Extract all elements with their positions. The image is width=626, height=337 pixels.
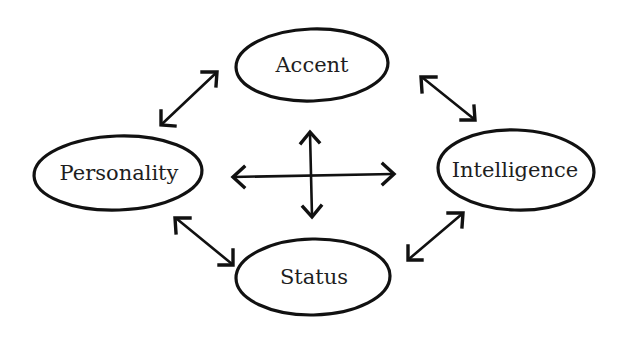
arrow-personality-status-icon bbox=[175, 218, 233, 265]
node-personality: Personality bbox=[33, 133, 203, 213]
node-status: Status bbox=[235, 238, 390, 317]
node-accent: Accent bbox=[235, 26, 389, 103]
four-way-cross-arrow-icon bbox=[233, 132, 394, 217]
node-intelligence: Intelligence bbox=[437, 127, 596, 212]
status-label: Status bbox=[280, 265, 348, 289]
personality-label: Personality bbox=[60, 161, 179, 185]
accent-label: Accent bbox=[274, 53, 349, 77]
arrow-accent-intelligence-icon bbox=[421, 77, 475, 120]
arrow-status-intelligence-icon bbox=[408, 213, 463, 260]
intelligence-label: Intelligence bbox=[452, 158, 578, 182]
arrow-personality-accent-icon bbox=[161, 72, 217, 126]
relationship-diagram: Accent Personality Intelligence Status bbox=[0, 0, 626, 337]
